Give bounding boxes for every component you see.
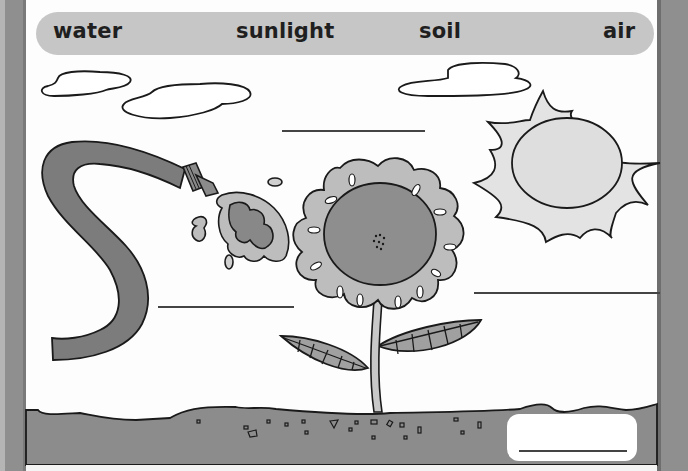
flower-stem	[371, 300, 382, 412]
answer-blank-soil[interactable]	[519, 450, 627, 452]
illustration	[0, 0, 688, 471]
sun-icon	[474, 91, 660, 242]
soil-answer-box	[507, 414, 637, 461]
cloud-icon	[399, 63, 531, 96]
hose-icon	[42, 141, 218, 360]
cloud-icon	[122, 83, 250, 118]
leaf-icon	[281, 336, 368, 370]
cloud-icon	[42, 71, 131, 96]
worksheet-bottom-margin	[26, 465, 657, 471]
leaf-icon	[378, 320, 481, 354]
flower-icon	[293, 158, 463, 309]
